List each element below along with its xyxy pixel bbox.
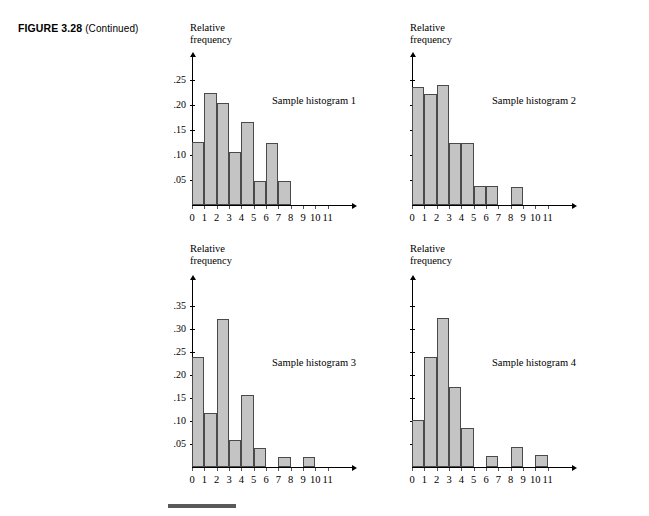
histogram-bar: [229, 440, 241, 467]
x-axis-tick: [437, 468, 438, 471]
x-axis-tick-label: 11: [538, 212, 558, 223]
x-axis-arrow-icon: [572, 203, 577, 209]
y-axis-title: Relativefrequency: [410, 243, 452, 266]
x-axis-tick: [535, 468, 536, 471]
y-axis-title-line1: Relative: [190, 22, 232, 34]
x-axis-arrow-icon: [352, 203, 357, 209]
x-axis-tick: [303, 468, 304, 471]
x-axis-tick: [204, 206, 205, 209]
y-axis-tick-label: .10: [160, 415, 186, 426]
histogram-bar: [278, 457, 290, 467]
y-axis-title: Relativefrequency: [410, 22, 452, 45]
y-axis-tick-label: .20: [160, 99, 186, 110]
x-axis-tick: [315, 206, 316, 209]
x-axis-tick: [254, 468, 255, 471]
y-axis-tick-label: .25: [160, 346, 186, 357]
x-axis-tick: [291, 468, 292, 471]
x-axis-tick: [266, 468, 267, 471]
y-axis-arrow-icon: [410, 52, 416, 57]
histogram-bar: [449, 387, 461, 467]
histogram-title: Sample histogram 3: [272, 357, 356, 368]
histogram-bar: [254, 448, 266, 467]
y-axis-tick: [190, 352, 195, 353]
x-axis-tick: [241, 206, 242, 209]
x-axis-tick: [498, 206, 499, 209]
histogram-bar: [241, 395, 253, 467]
y-axis-title-line1: Relative: [410, 243, 452, 255]
x-axis-tick: [278, 206, 279, 209]
histogram-bar: [535, 455, 547, 467]
y-axis-tick-label: .10: [160, 149, 186, 160]
histogram-title: Sample histogram 2: [492, 95, 576, 106]
y-axis-title-line2: frequency: [190, 34, 232, 46]
histogram-bar: [192, 142, 204, 205]
y-axis-tick: [410, 306, 415, 307]
x-axis-arrow-icon: [352, 465, 357, 471]
x-axis-tick: [229, 468, 230, 471]
footer-rule: [168, 504, 236, 508]
x-axis-tick: [424, 206, 425, 209]
x-axis-arrow-icon: [572, 465, 577, 471]
y-axis-tick-label: .35: [160, 300, 186, 311]
x-axis-tick: [474, 468, 475, 471]
histogram-bar: [229, 152, 241, 205]
histogram-bar: [303, 457, 315, 467]
histogram-bar: [461, 428, 473, 467]
x-axis-tick: [498, 468, 499, 471]
histogram-bar: [424, 357, 436, 467]
x-axis-tick: [328, 206, 329, 209]
histogram-bar: [192, 357, 204, 467]
histogram-bar: [204, 413, 216, 467]
histogram-bar: [449, 143, 461, 205]
x-axis-tick: [523, 206, 524, 209]
x-axis-tick: [548, 468, 549, 471]
x-axis-tick: [192, 206, 193, 209]
x-axis-tick: [523, 468, 524, 471]
y-axis-arrow-icon: [190, 52, 196, 57]
histogram-bar: [217, 319, 229, 467]
histogram-bar: [254, 181, 266, 205]
y-axis-title-line1: Relative: [190, 243, 232, 255]
figure-caption: FIGURE 3.28 (Continued): [18, 22, 139, 34]
x-axis-tick: [241, 468, 242, 471]
x-axis-tick: [424, 468, 425, 471]
x-axis-tick: [437, 206, 438, 209]
histogram-bar: [424, 94, 436, 205]
y-axis-tick: [410, 375, 415, 376]
x-axis-tick: [328, 468, 329, 471]
histogram-title: Sample histogram 4: [492, 357, 576, 368]
x-axis-tick-label: 11: [538, 474, 558, 485]
y-axis-title-line1: Relative: [410, 22, 452, 34]
histogram-bar: [412, 87, 424, 205]
histogram-bar: [217, 103, 229, 205]
x-axis-tick: [511, 206, 512, 209]
x-axis-tick: [511, 468, 512, 471]
y-axis-title-line2: frequency: [410, 255, 452, 267]
x-axis-tick: [449, 206, 450, 209]
y-axis-tick-label: .05: [160, 438, 186, 449]
y-axis-title: Relativefrequency: [190, 243, 232, 266]
x-axis-tick: [412, 468, 413, 471]
histogram-bar: [204, 93, 216, 205]
y-axis-title-line2: frequency: [410, 34, 452, 46]
y-axis-tick-label: .20: [160, 369, 186, 380]
y-axis-tick-label: .30: [160, 323, 186, 334]
x-axis-tick: [461, 206, 462, 209]
y-axis-tick: [190, 80, 195, 81]
histogram-bar: [241, 122, 253, 205]
histogram-bar: [266, 143, 278, 205]
y-axis-tick: [410, 352, 415, 353]
y-axis-tick-label: .25: [160, 74, 186, 85]
y-axis-tick: [190, 329, 195, 330]
y-axis-title-line2: frequency: [190, 255, 232, 267]
histogram-bar: [412, 420, 424, 467]
histogram-bar: [486, 186, 498, 205]
y-axis-tick: [410, 80, 415, 81]
histogram-title: Sample histogram 1: [272, 95, 356, 106]
x-axis-tick-label: 11: [318, 212, 338, 223]
y-axis-arrow-icon: [190, 275, 196, 280]
y-axis-tick: [190, 130, 195, 131]
histogram-bar: [278, 181, 290, 205]
histogram-bar: [461, 143, 473, 205]
x-axis-tick: [315, 468, 316, 471]
